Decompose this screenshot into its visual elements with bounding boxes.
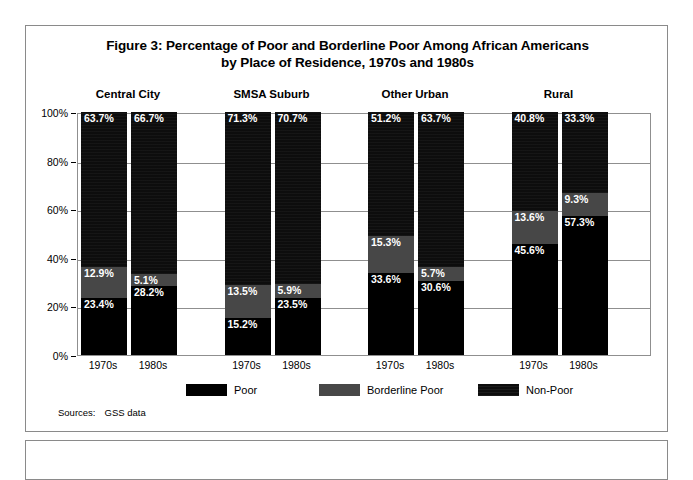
- stacked-bar[interactable]: 30.6%5.7%63.7%: [418, 112, 464, 355]
- chart-plot-wrapper: 0%20%40%60%80%100% Central CitySMSA Subu…: [26, 26, 669, 433]
- sources-value: GSS data: [105, 407, 146, 418]
- y-axis-tick-mark: [71, 210, 76, 211]
- bar-segment-non-poor[interactable]: 63.7%: [81, 112, 127, 267]
- bar-segment-value-label: 30.6%: [421, 282, 451, 294]
- y-axis-tick-mark: [71, 113, 76, 114]
- bar-segment-borderline-poor[interactable]: 5.1%: [131, 274, 177, 286]
- x-axis-tick-label: 1970s: [508, 359, 560, 371]
- bar-segment-value-label: 63.7%: [421, 113, 451, 125]
- bar-segment-borderline-poor[interactable]: 13.5%: [225, 285, 271, 318]
- stacked-bar[interactable]: 45.6%13.6%40.8%: [512, 112, 558, 355]
- bar-segment-value-label: 15.3%: [371, 237, 401, 249]
- bar-segment-value-label: 23.5%: [278, 299, 308, 311]
- bar-segment-value-label: 5.9%: [278, 285, 302, 297]
- bar-segment-borderline-poor[interactable]: 15.3%: [368, 236, 414, 273]
- bar-segment-borderline-poor[interactable]: 5.7%: [418, 267, 464, 281]
- y-axis-tick-mark: [71, 307, 76, 308]
- x-axis-tick-label: 1980s: [414, 359, 466, 371]
- plot-area: 23.4%12.9%63.7%28.2%5.1%66.7%15.2%13.5%7…: [77, 113, 651, 356]
- bar-segment-poor[interactable]: 23.5%: [275, 298, 321, 355]
- y-axis-tick-label: 20%: [26, 301, 68, 313]
- bar-segment-value-label: 9.3%: [565, 194, 589, 206]
- bar-segment-value-label: 33.6%: [371, 274, 401, 286]
- stacked-bar[interactable]: 57.3%9.3%33.3%: [562, 112, 608, 355]
- y-axis-tick-mark: [71, 162, 76, 163]
- stacked-bar[interactable]: 15.2%13.5%71.3%: [225, 112, 271, 355]
- bar-segment-non-poor[interactable]: 40.8%: [512, 112, 558, 211]
- legend-swatch-non-poor-icon: [478, 384, 519, 396]
- bar-segment-value-label: 5.1%: [134, 275, 158, 287]
- bar-segment-poor[interactable]: 23.4%: [81, 298, 127, 355]
- bar-segment-value-label: 63.7%: [84, 113, 114, 125]
- y-axis-tick-mark: [71, 259, 76, 260]
- bar-segment-poor[interactable]: 28.2%: [131, 286, 177, 355]
- bar-segment-non-poor[interactable]: 70.7%: [275, 112, 321, 284]
- sources-note: Sources:GSS data: [58, 407, 146, 418]
- bar-segment-poor[interactable]: 30.6%: [418, 281, 464, 355]
- legend-swatch-borderline-poor-icon: [319, 384, 360, 396]
- bar-segment-value-label: 5.7%: [421, 268, 445, 280]
- bar-segment-value-label: 12.9%: [84, 268, 114, 280]
- bar-segment-poor[interactable]: 57.3%: [562, 216, 608, 355]
- bar-segment-value-label: 28.2%: [134, 287, 164, 299]
- group-title-rural: Rural: [489, 88, 629, 100]
- legend-item-borderline-poor: Borderline Poor: [319, 384, 443, 396]
- legend-label-poor: Poor: [234, 384, 257, 396]
- legend-label-non-poor: Non-Poor: [526, 384, 573, 396]
- legend-item-poor: Poor: [186, 384, 257, 396]
- group-title-smsa-suburb: SMSA Suburb: [202, 88, 342, 100]
- secondary-box: [25, 440, 668, 480]
- group-title-central-city: Central City: [58, 88, 198, 100]
- chart-legend: Poor Borderline Poor Non-Poor: [26, 384, 669, 402]
- bar-segment-value-label: 51.2%: [371, 113, 401, 125]
- bar-segment-borderline-poor[interactable]: 13.6%: [512, 211, 558, 244]
- y-axis-tick-label: 0%: [26, 350, 68, 362]
- bar-segment-value-label: 70.7%: [278, 113, 308, 125]
- bar-segment-poor[interactable]: 45.6%: [512, 244, 558, 355]
- bar-segment-value-label: 33.3%: [565, 113, 595, 125]
- legend-item-non-poor: Non-Poor: [478, 384, 573, 396]
- bar-segment-poor[interactable]: 15.2%: [225, 318, 271, 355]
- bar-segment-borderline-poor[interactable]: 9.3%: [562, 193, 608, 216]
- bar-segment-non-poor[interactable]: 66.7%: [131, 112, 177, 274]
- y-axis-tick-label: 60%: [26, 204, 68, 216]
- bar-segment-value-label: 57.3%: [565, 217, 595, 229]
- bar-segment-value-label: 13.6%: [515, 212, 545, 224]
- y-axis-tick-label: 40%: [26, 253, 68, 265]
- bar-segment-value-label: 15.2%: [228, 319, 258, 331]
- bar-segment-value-label: 23.4%: [84, 299, 114, 311]
- y-axis-tick-label: 100%: [26, 107, 68, 119]
- group-title-other-urban: Other Urban: [345, 88, 485, 100]
- bar-segment-non-poor[interactable]: 71.3%: [225, 112, 271, 285]
- x-axis-tick-label: 1980s: [127, 359, 179, 371]
- x-axis-tick-label: 1970s: [221, 359, 273, 371]
- sources-label: Sources:: [58, 407, 96, 418]
- bar-segment-value-label: 13.5%: [228, 286, 258, 298]
- x-axis-tick-label: 1970s: [77, 359, 129, 371]
- bar-segment-poor[interactable]: 33.6%: [368, 273, 414, 355]
- figure-container: Figure 3: Percentage of Poor and Borderl…: [25, 25, 668, 432]
- bar-segment-non-poor[interactable]: 33.3%: [562, 112, 608, 193]
- bar-segment-borderline-poor[interactable]: 5.9%: [275, 284, 321, 298]
- bar-segment-non-poor[interactable]: 63.7%: [418, 112, 464, 267]
- x-axis-tick-label: 1980s: [558, 359, 610, 371]
- bar-segment-value-label: 71.3%: [228, 113, 258, 125]
- stacked-bar[interactable]: 23.4%12.9%63.7%: [81, 112, 127, 355]
- x-axis-tick-label: 1980s: [271, 359, 323, 371]
- bar-segment-borderline-poor[interactable]: 12.9%: [81, 267, 127, 298]
- bar-segment-value-label: 40.8%: [515, 113, 545, 125]
- bar-segment-value-label: 66.7%: [134, 113, 164, 125]
- y-axis-tick-label: 80%: [26, 156, 68, 168]
- bar-segment-non-poor[interactable]: 51.2%: [368, 112, 414, 236]
- legend-swatch-poor-icon: [186, 384, 227, 396]
- stacked-bar[interactable]: 33.6%15.3%51.2%: [368, 112, 414, 355]
- stacked-bar[interactable]: 28.2%5.1%66.7%: [131, 112, 177, 355]
- x-axis-tick-label: 1970s: [364, 359, 416, 371]
- y-axis-tick-mark: [71, 356, 76, 357]
- legend-label-borderline-poor: Borderline Poor: [367, 384, 443, 396]
- stacked-bar[interactable]: 23.5%5.9%70.7%: [275, 112, 321, 355]
- bar-segment-value-label: 45.6%: [515, 245, 545, 257]
